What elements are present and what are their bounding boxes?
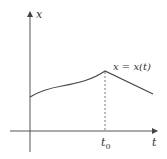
diagram-canvas: x x = x(t) t0 t xyxy=(0,0,167,159)
x-axis-label: x xyxy=(36,8,43,21)
curve-label: x = x(t) xyxy=(113,61,151,72)
curve-x-of-t xyxy=(30,71,153,97)
t0-label: t0 xyxy=(101,136,111,151)
t-axis-label: t xyxy=(152,136,157,149)
